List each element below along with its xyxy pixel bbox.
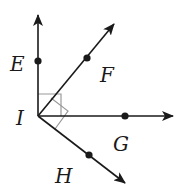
right-angle-marker-FIH (51, 98, 68, 129)
geometry-diagram: E F G H I (0, 0, 178, 190)
point-F (83, 54, 90, 61)
label-E: E (9, 52, 25, 76)
point-H (85, 151, 92, 158)
ray-IH (38, 116, 125, 183)
label-I: I (15, 106, 25, 130)
label-H: H (54, 164, 73, 188)
label-G: G (113, 132, 129, 156)
point-E (34, 57, 41, 64)
label-F: F (99, 63, 115, 87)
point-G (121, 112, 128, 119)
